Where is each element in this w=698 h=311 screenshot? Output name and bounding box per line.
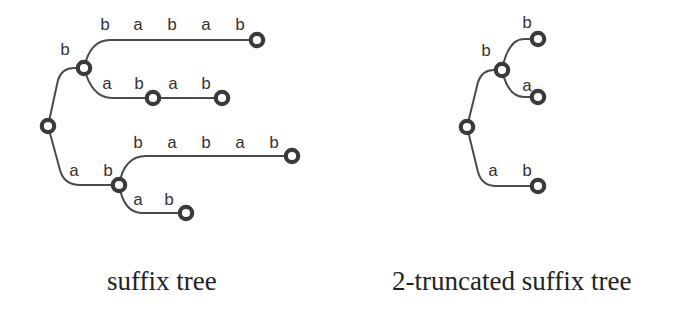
label-low-top-4: a [235, 134, 245, 153]
r-node-root [461, 121, 473, 133]
label-low-top-3: b [201, 134, 211, 153]
leaf-ab-babab [286, 150, 298, 162]
edge-b-babab [84, 40, 257, 68]
r-label-root-b: b [481, 42, 491, 61]
left-tree-labels: b b a b a b a b a b a b b a b a b a b [60, 16, 279, 210]
node-root [42, 120, 54, 132]
edge-r-root-b [467, 70, 502, 127]
label-low-top-2: a [167, 134, 177, 153]
label-top-4: a [201, 16, 211, 35]
r-label-leaf-b: b [522, 14, 532, 33]
edge-ab-ab [119, 185, 186, 213]
caption-suffix-tree: suffix tree [107, 266, 217, 297]
node-b [78, 62, 90, 74]
r-label-ab-b: b [522, 162, 532, 181]
label-root-ab-b: b [103, 162, 113, 181]
label-mid2-a: a [168, 75, 178, 94]
label-top-1: b [100, 16, 110, 35]
leaf-abab [216, 92, 228, 104]
leaf-babab [251, 34, 263, 46]
label-root-ab-a: a [69, 162, 79, 181]
label-low-top-1: b [133, 134, 143, 153]
r-node-b [496, 64, 508, 76]
r-leaf-bb [532, 33, 544, 45]
r-leaf-ba [532, 91, 544, 103]
leaf-ab-ab [180, 207, 192, 219]
node-ab-mid [147, 92, 159, 104]
r-leaf-ab [532, 180, 544, 192]
caption-truncated-suffix-tree: 2-truncated suffix tree [392, 266, 631, 297]
label-low-top-5: b [269, 134, 279, 153]
suffix-tree-diagrams: b b a b a b a b a b a b b a b a b a b b [0, 0, 698, 311]
node-ab [113, 179, 125, 191]
edge-root-b [48, 68, 84, 126]
label-mid2-b: b [201, 75, 211, 94]
label-top-3: b [167, 16, 177, 35]
r-label-ab-a: a [488, 162, 498, 181]
label-low-bottom-b: b [164, 191, 174, 210]
label-mid1-a: a [102, 75, 112, 94]
r-label-leaf-a: a [522, 77, 532, 96]
label-top-2: a [133, 16, 143, 35]
label-top-5: b [235, 16, 245, 35]
label-root-b: b [60, 41, 70, 60]
label-mid1-b: b [134, 75, 144, 94]
edge-ab-babab [119, 156, 292, 185]
label-low-bottom-a: a [133, 191, 143, 210]
